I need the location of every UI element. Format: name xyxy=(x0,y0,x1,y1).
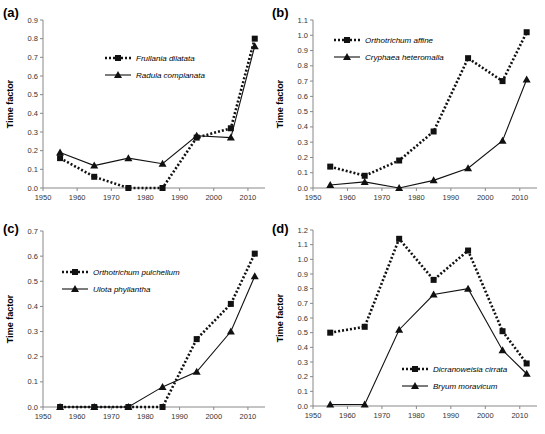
y-tick-label: 1.1 xyxy=(298,16,308,25)
x-tick-label: 1950 xyxy=(35,412,52,421)
x-tick-label: 1950 xyxy=(35,193,52,202)
y-tick-label: 0.7 xyxy=(298,77,308,86)
y-tick-label: 0.4 xyxy=(28,302,38,311)
y-tick-label: 0.3 xyxy=(298,138,308,147)
square-marker-icon xyxy=(362,173,368,179)
square-marker-icon xyxy=(396,158,402,164)
legend-square-icon xyxy=(115,55,121,61)
legend-label: Ulota phyllantha xyxy=(93,285,151,294)
y-tick-label: 0.1 xyxy=(28,165,38,174)
legend-label: Orthotrichum affine xyxy=(365,36,434,45)
y-tick-label: 0.3 xyxy=(28,327,38,336)
legend: Orthotrichum pulchellumUlota phyllantha xyxy=(62,268,180,294)
square-marker-icon xyxy=(327,330,333,336)
legend-label: Dicranoweisia cirrata xyxy=(433,365,508,374)
y-tick-label: 0.4 xyxy=(298,343,308,352)
legend-square-icon xyxy=(344,37,350,43)
square-marker-icon xyxy=(396,236,402,242)
y-tick-label: 0.7 xyxy=(28,53,38,62)
square-marker-icon xyxy=(228,125,234,131)
square-marker-icon xyxy=(160,185,166,191)
y-tick-label: 0.6 xyxy=(298,314,308,323)
y-axis-label: Time factor xyxy=(275,79,285,128)
x-tick-label: 1970 xyxy=(103,412,120,421)
x-tick-label: 2000 xyxy=(205,193,222,202)
legend-label: Radula complanata xyxy=(136,71,205,80)
y-tick-label: 0.9 xyxy=(28,16,38,25)
panel-label: (c) xyxy=(3,221,19,236)
y-tick-label: 0.3 xyxy=(28,128,38,137)
x-tick-label: 1960 xyxy=(339,411,356,420)
x-tick-label: 1970 xyxy=(103,193,120,202)
triangle-marker-icon xyxy=(56,149,64,156)
y-tick-label: 0.0 xyxy=(298,184,308,193)
square-marker-icon xyxy=(57,155,63,161)
triangle-marker-icon xyxy=(499,346,507,353)
y-tick-label: 0.2 xyxy=(298,372,308,381)
series-line-ulota-phyllantha xyxy=(60,276,255,407)
series-line-dicranoweisia-cirrata xyxy=(330,239,526,364)
figure-multi-panel-line-charts: (a)0.00.10.20.30.40.50.60.70.80.91950196… xyxy=(0,0,545,434)
y-tick-label: 0.1 xyxy=(28,377,38,386)
square-marker-icon xyxy=(524,29,530,35)
y-axis-label: Time factor xyxy=(5,294,15,343)
chart-panel-c: (c)0.00.10.20.30.40.50.60.71950196019701… xyxy=(3,221,265,421)
y-tick-label: 0.1 xyxy=(298,168,308,177)
legend-label: Frullania dilatata xyxy=(136,54,195,63)
x-tick-label: 1960 xyxy=(69,193,86,202)
y-tick-label: 0.4 xyxy=(298,122,308,131)
legend-label: Cryphaea heteromalla xyxy=(365,53,444,62)
x-tick-label: 2010 xyxy=(511,193,528,202)
y-tick-label: 1.1 xyxy=(298,240,308,249)
y-tick-label: 0.0 xyxy=(28,184,38,193)
y-tick-label: 0.9 xyxy=(298,46,308,55)
square-marker-icon xyxy=(431,128,437,134)
x-tick-label: 1950 xyxy=(305,411,322,420)
y-tick-label: 0.8 xyxy=(298,61,308,70)
square-marker-icon xyxy=(465,55,471,61)
y-tick-label: 0.2 xyxy=(298,153,308,162)
legend: Orthotrichum affineCryphaea heteromalla xyxy=(334,36,444,62)
y-tick-label: 0.5 xyxy=(298,328,308,337)
y-tick-label: 1.0 xyxy=(298,31,308,40)
triangle-marker-icon xyxy=(227,328,235,335)
y-tick-label: 0.8 xyxy=(298,284,308,293)
y-tick-label: 0.7 xyxy=(298,299,308,308)
y-tick-label: 0.5 xyxy=(28,90,38,99)
panel-label: (b) xyxy=(272,5,289,20)
y-tick-label: 0.1 xyxy=(298,387,308,396)
x-tick-label: 2010 xyxy=(240,412,257,421)
y-axis-label: Time factor xyxy=(275,293,285,342)
y-tick-label: 0.3 xyxy=(298,358,308,367)
triangle-marker-icon xyxy=(159,383,167,390)
square-marker-icon xyxy=(194,135,200,141)
square-marker-icon xyxy=(465,248,471,254)
x-tick-label: 2000 xyxy=(205,412,222,421)
y-tick-label: 0.6 xyxy=(28,72,38,81)
x-tick-label: 1980 xyxy=(137,412,154,421)
series-line-radula-complanata xyxy=(60,46,255,165)
x-tick-label: 1990 xyxy=(443,411,460,420)
square-marker-icon xyxy=(125,404,131,410)
triangle-marker-icon xyxy=(523,76,531,83)
legend: Frullania dilatataRadula complanata xyxy=(105,54,205,80)
triangle-marker-icon xyxy=(464,164,472,171)
y-tick-label: 0.0 xyxy=(298,402,308,411)
square-marker-icon xyxy=(228,301,234,307)
legend-label: Orthotrichum pulchellum xyxy=(93,268,180,277)
x-tick-label: 1960 xyxy=(69,412,86,421)
x-tick-label: 2000 xyxy=(477,193,494,202)
triangle-marker-icon xyxy=(464,285,472,292)
triangle-marker-icon xyxy=(361,178,369,185)
triangle-marker-icon xyxy=(499,137,507,144)
y-tick-label: 0.4 xyxy=(28,109,38,118)
chart-panel-d: (d)0.00.10.20.30.40.50.60.70.80.91.01.11… xyxy=(272,221,537,420)
x-tick-label: 1960 xyxy=(339,193,356,202)
square-marker-icon xyxy=(252,36,258,42)
legend: Dicranoweisia cirrataBryum moravicum xyxy=(402,365,508,391)
legend-label: Bryum moravicum xyxy=(433,382,498,391)
series-line-cryphaea-heteromalla xyxy=(330,80,526,188)
square-marker-icon xyxy=(327,164,333,170)
y-tick-label: 1.0 xyxy=(298,255,308,264)
x-tick-label: 1990 xyxy=(171,193,188,202)
